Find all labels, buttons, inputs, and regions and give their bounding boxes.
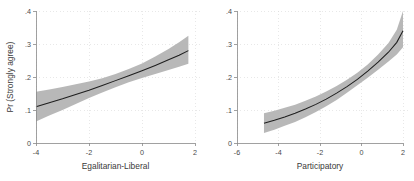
x-axis-tick-label: 0 — [360, 148, 364, 157]
confidence-interval-band — [264, 11, 403, 133]
y-axis-tick-label: .2 — [226, 73, 232, 82]
x-axis-tick-label: 2 — [401, 148, 405, 157]
x-axis-tick-label: -4 — [275, 148, 281, 157]
y-axis-tick-label: .4 — [25, 7, 31, 16]
panel-participatory: 0.1.2.3.4-6-4-202Participatory — [207, 0, 414, 181]
x-axis-tick-label: 2 — [193, 148, 197, 157]
x-axis-tick-label: -2 — [317, 148, 323, 157]
confidence-interval-band — [36, 36, 188, 122]
y-axis-tick-label: .3 — [226, 40, 232, 49]
y-axis-tick-label: .1 — [226, 106, 232, 115]
plot-area-right: 0.1.2.3.4-6-4-202Participatory — [207, 0, 414, 181]
y-axis-tick-label: .2 — [25, 73, 31, 82]
x-axis-tick-label: -2 — [86, 148, 92, 157]
x-axis-title: Participatory — [297, 161, 344, 171]
panel-egalitarian-liberal: 0.1.2.3.4-4-202Egalitarian-LiberalPr (St… — [0, 0, 207, 181]
x-axis-tick-label: -4 — [33, 148, 39, 157]
y-axis-tick-label: .3 — [25, 40, 31, 49]
x-axis-tick-label: 0 — [140, 148, 144, 157]
y-axis-tick-label: 0 — [27, 139, 31, 148]
y-axis-tick-label: 0 — [228, 139, 232, 148]
y-axis-title: Pr (Strongly agree) — [5, 41, 15, 112]
figure-two-panel-margins-plot: 0.1.2.3.4-4-202Egalitarian-LiberalPr (St… — [0, 0, 414, 181]
x-axis-title: Egalitarian-Liberal — [82, 161, 150, 171]
x-axis-tick-label: -6 — [234, 148, 240, 157]
plot-area-left: 0.1.2.3.4-4-202Egalitarian-LiberalPr (St… — [0, 0, 207, 181]
y-axis-tick-label: .4 — [226, 7, 232, 16]
y-axis-tick-label: .1 — [25, 106, 31, 115]
